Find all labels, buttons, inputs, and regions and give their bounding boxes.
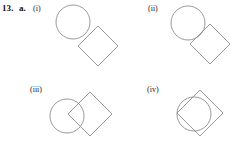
- problem-number: 13.: [2, 3, 14, 14]
- panel-diagram-iv: [168, 84, 238, 144]
- panel-label-iii: (iii): [30, 85, 42, 95]
- panel-label-i: (i): [33, 4, 41, 14]
- circle-shape-i: [56, 5, 90, 39]
- panel-diagram-iii: [48, 86, 118, 144]
- circle-shape-iv: [177, 97, 211, 131]
- circle-shape-iii: [50, 99, 84, 133]
- panel-label-ii: (ii): [148, 4, 158, 14]
- circle-shape-ii: [171, 6, 205, 40]
- panel-diagram-i: [50, 2, 123, 70]
- panel-label-iv: (iv): [147, 85, 159, 95]
- panel-diagram-ii: [165, 2, 241, 70]
- figure-root: 13. a. (i) (ii) (iii) (iv): [0, 0, 246, 146]
- part-letter: a.: [19, 3, 26, 14]
- square-shape-iv: [177, 90, 223, 136]
- square-shape-i: [78, 26, 118, 66]
- square-shape-ii: [190, 24, 230, 64]
- square-shape-iii: [68, 92, 112, 136]
